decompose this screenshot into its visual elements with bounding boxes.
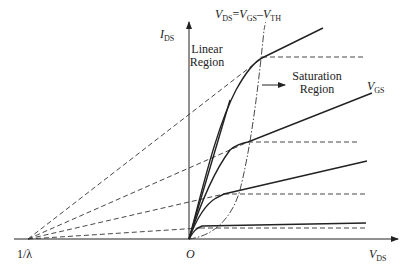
curve-vgs-steep — [189, 100, 230, 239]
linear-region-label-2: Region — [190, 55, 225, 69]
saturation-region-label-1: Saturation — [292, 69, 341, 83]
svg-text:VDS=VGS–VTH: VDS=VGS–VTH — [215, 7, 281, 23]
intercept-label: 1/λ — [17, 247, 32, 261]
boundary-label-leader — [264, 20, 266, 30]
linear-region-label-1: Linear — [191, 42, 222, 56]
origin-label: O — [186, 247, 195, 261]
extrapolation-lines — [28, 58, 262, 239]
mosfet-iv-diagram: IDS VDS=VGS–VTH Linear Region Saturation… — [0, 0, 403, 271]
curve-vgs-4 — [189, 223, 366, 239]
saturation-region-label-2: Region — [300, 82, 335, 96]
svg-text:VGS: VGS — [367, 79, 385, 95]
svg-text:IDS: IDS — [159, 27, 174, 43]
svg-text:VDS: VDS — [369, 247, 387, 263]
